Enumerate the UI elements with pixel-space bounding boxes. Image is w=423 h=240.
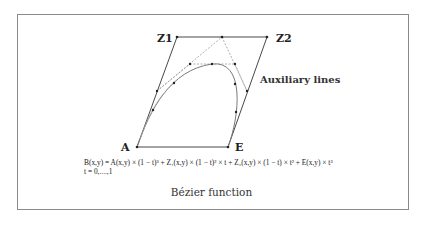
formula-line-2: t = 0,....,1 xyxy=(84,167,333,176)
point-label-e: E xyxy=(235,141,243,154)
auxiliary-lines-label: Auxiliary lines xyxy=(260,74,340,85)
bezier-formula: B(x,y) = A(x,y) × (1 − t)³ + Z₁(x,y) × (… xyxy=(84,158,333,176)
formula-line-1: B(x,y) = A(x,y) × (1 − t)³ + Z₁(x,y) × (… xyxy=(84,158,333,167)
figure-caption: Bézier function xyxy=(0,186,423,198)
control-points xyxy=(136,36,269,149)
point-label-z1: Z1 xyxy=(157,32,173,45)
auxiliary-lines xyxy=(157,37,247,91)
point-label-a: A xyxy=(121,141,130,154)
point-label-z2: Z2 xyxy=(276,32,292,45)
